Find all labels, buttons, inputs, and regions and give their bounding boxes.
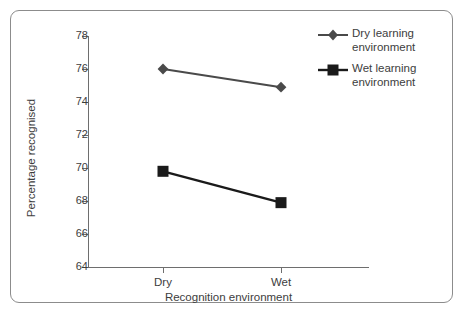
legend-key-dry [318,29,348,41]
series-wet-marker-wet [276,197,287,208]
figure-container: 78 76 74 72 70 68 66 64 Dr [0,0,464,318]
series-dry-learning-environment [158,64,287,93]
diamond-marker-icon [328,30,338,41]
series-wet-learning-environment [158,166,287,208]
series-dry-line [163,69,281,87]
legend-label-dry-line1: Dry learning [352,26,450,40]
chart-legend: Dry learning environment Wet learning en… [318,26,450,96]
legend-label-dry-line2: environment [352,40,450,54]
legend-label-dry: Dry learning environment [352,26,450,54]
series-dry-marker-dry [158,64,169,75]
series-wet-line [163,171,281,202]
legend-item-dry-learning-environment: Dry learning environment [318,26,450,54]
legend-label-wet: Wet learning environment [352,61,450,89]
series-wet-marker-dry [158,166,169,177]
legend-item-wet-learning-environment: Wet learning environment [318,61,450,89]
plot-area: 78 76 74 72 70 68 66 64 Dr [0,0,464,318]
series-dry-marker-wet [276,82,287,93]
square-marker-icon [328,65,339,76]
legend-label-wet-line2: environment [352,75,450,89]
legend-key-wet [318,64,348,76]
legend-label-wet-line1: Wet learning [352,61,450,75]
